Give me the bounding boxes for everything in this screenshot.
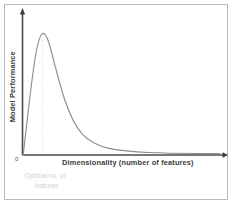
x-axis-label: Dimensionality (number of features)	[62, 159, 194, 166]
performance-curve	[23, 33, 220, 154]
x-axis-origin-tick-label: 0	[15, 156, 18, 162]
y-axis-arrow-icon	[20, 8, 25, 15]
x-axis-arrow-icon	[223, 152, 229, 158]
annotation-line-1: Optimal no. of	[16, 171, 74, 181]
optimal-features-annotation: Optimal no. of features	[16, 171, 74, 191]
y-axis-label: Model Performance	[9, 40, 16, 134]
annotation-line-2: features	[16, 181, 74, 191]
chart-figure: 0 Dimensionality (number of features) Mo…	[0, 0, 236, 206]
